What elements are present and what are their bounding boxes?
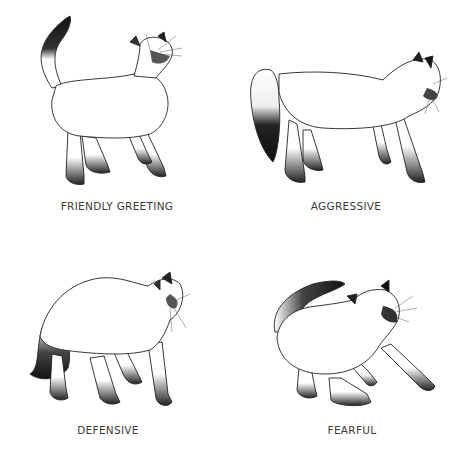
panel-aggressive: AGGRESSIVE [233, 0, 466, 228]
cat-crouching-hissing-icon [233, 228, 466, 456]
panel-friendly-greeting: FRIENDLY GREETING [0, 0, 233, 228]
cat-stalking-icon [233, 0, 466, 228]
panel-fearful: FEARFUL [233, 228, 466, 456]
panel-defensive: DEFENSIVE [0, 228, 233, 456]
cat-tail-up-icon [0, 0, 233, 228]
cat-arched-back-icon [0, 228, 233, 456]
caption-defensive: DEFENSIVE [77, 424, 139, 436]
caption-fearful: FEARFUL [328, 424, 377, 436]
caption-friendly-greeting: FRIENDLY GREETING [61, 200, 174, 212]
caption-aggressive: AGGRESSIVE [311, 200, 381, 212]
